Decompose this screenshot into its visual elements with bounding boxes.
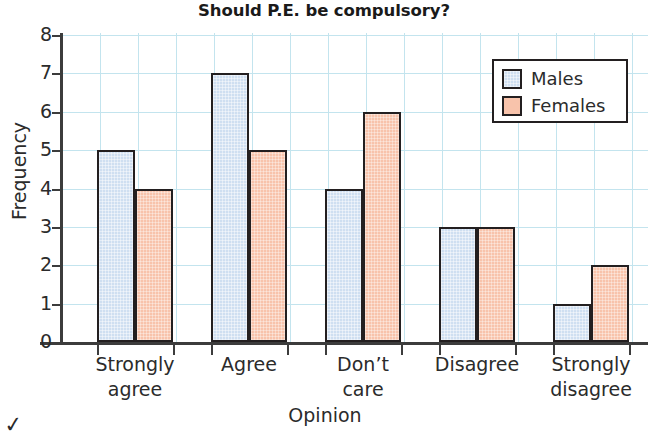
bar-males <box>325 189 363 343</box>
y-axis-tick-label: 2 <box>6 255 52 274</box>
bar-males <box>211 73 249 342</box>
bar-females <box>591 265 629 342</box>
y-axis-tick <box>52 73 62 75</box>
bar-males <box>97 150 135 342</box>
bar-chart: Should P.E. be compulsory? 012345678 Fre… <box>0 0 648 432</box>
legend-swatch-females-icon <box>502 96 522 116</box>
legend-swatch-males-icon <box>502 69 522 89</box>
legend-item-males: Males <box>502 65 626 92</box>
x-axis-title: Opinion <box>255 404 395 426</box>
x-axis-category-label: Disagree <box>417 352 537 377</box>
legend-label-females: Females <box>531 95 605 116</box>
chart-title: Should P.E. be compulsory? <box>0 1 648 20</box>
bar-females <box>363 112 401 342</box>
bar-females <box>477 227 515 342</box>
x-axis-category-label: Stronglyagree <box>75 352 195 402</box>
y-axis-tick-label: 1 <box>6 294 52 313</box>
chart-legend: Males Females <box>492 59 628 123</box>
x-axis-category-label: Don’tcare <box>303 352 423 402</box>
scan-artifact-mark: ✓ <box>3 411 24 432</box>
y-axis-tick <box>52 112 62 114</box>
y-axis-tick <box>52 304 62 306</box>
y-axis-tick <box>52 227 62 229</box>
y-axis-tick <box>52 35 62 37</box>
legend-label-males: Males <box>531 68 583 89</box>
bar-females <box>135 189 173 343</box>
y-axis-tick <box>52 342 62 344</box>
bar-males <box>439 227 477 342</box>
y-axis-tick <box>52 265 62 267</box>
y-axis-tick-label: 7 <box>6 63 52 82</box>
y-axis-tick <box>52 150 62 152</box>
bar-males <box>553 304 591 342</box>
bar-females <box>249 150 287 342</box>
y-axis-tick-label: 8 <box>6 25 52 44</box>
y-axis-tick-label: 0 <box>6 332 52 351</box>
y-axis-title: Frequency <box>8 86 30 256</box>
legend-item-females: Females <box>502 92 626 119</box>
x-axis-category-label: Stronglydisagree <box>531 352 648 402</box>
y-axis-tick <box>52 189 62 191</box>
x-axis-category-label: Agree <box>189 352 309 377</box>
x-axis-line <box>40 342 648 345</box>
